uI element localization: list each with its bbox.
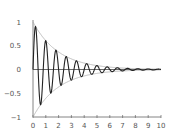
x-tick-label: 0 [31,122,35,130]
x-tick-label: 1 [44,122,48,130]
x-tick-label: 2 [56,122,60,130]
x-tick-label: 7 [120,122,124,130]
y-tick-label: −1 [11,114,21,122]
x-tick-label: 9 [146,122,150,130]
x-tick-label: 4 [82,122,87,130]
x-tick-label: 3 [69,122,73,130]
y-tick-label: 1 [17,19,21,27]
y-tick-label: 0 [17,66,21,74]
y-tick-label: −0.5 [4,90,21,98]
tick-labels: 01234567891010.50−0.5−1 [4,19,165,131]
x-tick-label: 6 [108,122,113,130]
x-tick-label: 8 [133,122,137,130]
x-tick-label: 5 [95,122,99,130]
damped-oscillation-chart: 01234567891010.50−0.5−1 [0,0,171,139]
lower-envelope-line [33,70,161,117]
y-tick-label: 0.5 [10,42,21,50]
upper-envelope-line [33,22,161,69]
x-tick-label: 10 [157,122,166,130]
oscillation-line [33,26,161,104]
